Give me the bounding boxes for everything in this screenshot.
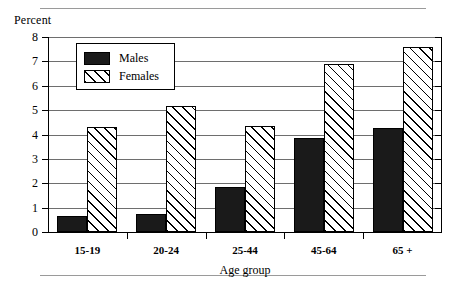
y-axis-tick-right — [435, 208, 442, 209]
x-axis-label-65: 65 + — [358, 244, 448, 256]
x-axis-label-15-19: 15-19 — [42, 244, 132, 256]
chart-legend: Males Females — [76, 43, 175, 90]
top-divider-rule — [40, 8, 426, 9]
x-axis-tick — [363, 232, 364, 239]
x-axis-label-25-44: 25-44 — [200, 244, 290, 256]
y-axis-tick — [42, 232, 49, 233]
bar-males-25-44 — [215, 187, 245, 232]
y-axis-tick-right — [435, 135, 442, 136]
y-axis-tick-label: 2 — [16, 177, 38, 189]
x-axis-tick — [127, 232, 128, 239]
legend-label-males: Males — [119, 52, 148, 64]
y-axis-tick-label: 7 — [16, 55, 38, 67]
x-axis-label-20-24: 20-24 — [121, 244, 211, 256]
bar-females-65 — [403, 47, 433, 232]
y-axis-tick — [42, 86, 49, 87]
bar-males-20-24 — [136, 214, 166, 232]
y-axis-tick — [42, 159, 49, 160]
y-axis-tick — [42, 183, 49, 184]
x-axis-tick — [284, 232, 285, 239]
gridline — [48, 37, 442, 38]
solid-black-swatch-icon — [84, 52, 110, 65]
y-axis-tick-label: 8 — [16, 31, 38, 43]
bar-males-65 — [373, 128, 403, 232]
bar-males-45-64 — [294, 138, 324, 232]
diagonal-hatch-swatch-icon — [84, 70, 110, 83]
y-axis-tick — [42, 208, 49, 209]
y-axis-tick-label: 5 — [16, 104, 38, 116]
x-axis-label-45-64: 45-64 — [279, 244, 369, 256]
y-axis-tick-right — [435, 183, 442, 184]
bar-females-15-19 — [87, 127, 117, 232]
bar-females-20-24 — [166, 106, 196, 232]
bar-females-45-64 — [324, 64, 354, 232]
y-axis-tick-right — [435, 86, 442, 87]
y-axis-tick — [42, 110, 49, 111]
y-axis-tick-right — [435, 159, 442, 160]
bar-males-15-19 — [57, 216, 87, 232]
y-axis-tick-right — [435, 110, 442, 111]
x-axis-caption: Age group — [48, 263, 442, 278]
y-axis-tick-right — [435, 37, 442, 38]
bar-females-25-44 — [245, 126, 275, 232]
y-axis-tick-label: 6 — [16, 80, 38, 92]
y-axis-tick-right — [435, 61, 442, 62]
y-axis-tick — [42, 135, 49, 136]
y-axis-tick-label: 4 — [16, 129, 38, 141]
legend-item-males: Males — [84, 51, 148, 65]
y-axis-tick — [42, 61, 49, 62]
y-axis-tick-label: 1 — [16, 202, 38, 214]
legend-item-females: Females — [84, 69, 159, 83]
y-axis-caption: Percent — [14, 13, 51, 28]
y-axis-tick-label: 3 — [16, 153, 38, 165]
y-axis-tick-label: 0 — [16, 226, 38, 238]
gridline — [48, 110, 442, 111]
legend-label-females: Females — [119, 70, 159, 82]
y-axis-tick — [42, 37, 49, 38]
y-axis-tick-right — [435, 232, 442, 233]
x-axis-tick — [206, 232, 207, 239]
x-axis-line — [48, 232, 442, 233]
